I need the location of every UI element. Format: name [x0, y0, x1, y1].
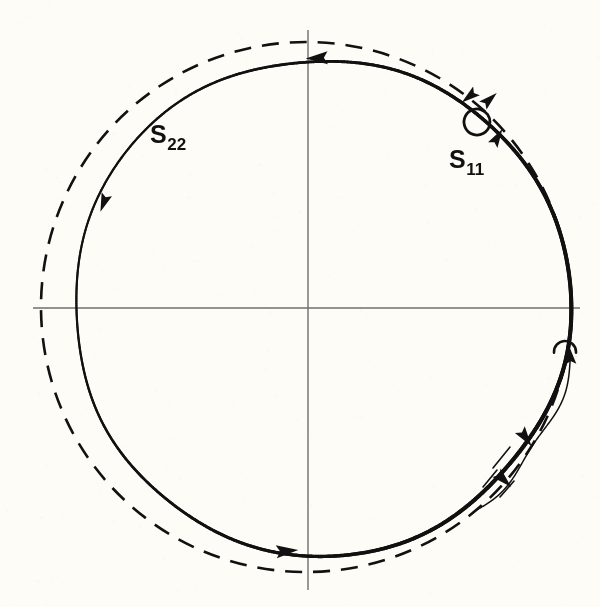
phase-portrait-canvas [0, 0, 600, 607]
label-s22-base: S [150, 120, 167, 148]
label-s11-subscript: 11 [466, 160, 484, 179]
label-s11: S11 [449, 147, 484, 172]
label-s11-base: S [449, 145, 466, 173]
figure-container: S22 S11 [0, 0, 600, 607]
label-s22: S22 [150, 122, 186, 147]
label-s22-subscript: 22 [167, 135, 186, 154]
